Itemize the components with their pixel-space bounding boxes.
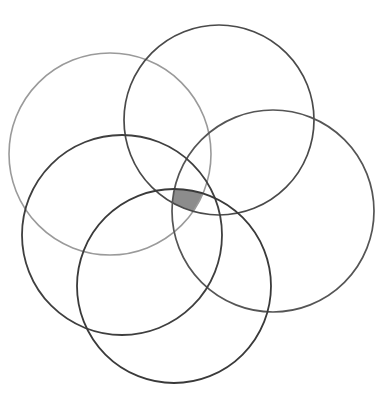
venn-diagram-figure	[0, 0, 392, 399]
venn-diagram-canvas	[0, 0, 392, 399]
